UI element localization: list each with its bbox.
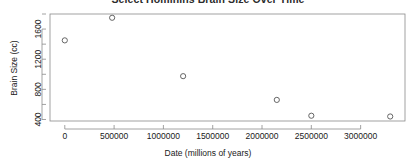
y-axis: 40080012001600 <box>33 14 46 127</box>
y-tick-label: 1200 <box>33 49 43 68</box>
x-tick-label: 1500000 <box>196 131 229 141</box>
x-axis: 0500000100000015000002000000250000030000… <box>62 125 377 141</box>
plot-frame <box>50 14 405 121</box>
y-axis-title: Brain Size (cc) <box>9 18 19 118</box>
data-point-marker <box>309 113 314 118</box>
x-tick-label: 500000 <box>100 131 129 141</box>
x-axis-title: Date (millions of years) <box>0 148 416 158</box>
x-tick-label: 3000000 <box>344 131 377 141</box>
data-point-marker <box>274 97 279 102</box>
x-tick-label: 1000000 <box>147 131 180 141</box>
data-points <box>62 15 393 119</box>
y-tick-label: 800 <box>33 82 43 96</box>
data-point-marker <box>388 114 393 119</box>
scatter-plot-canvas: 40080012001600 0500000100000015000002000… <box>0 0 416 164</box>
x-tick-label: 0 <box>62 131 67 141</box>
x-tick-label: 2500000 <box>295 131 328 141</box>
chart-figure: Select Hominins Brain Size Over Time 400… <box>0 0 416 164</box>
data-point-marker <box>110 15 115 20</box>
x-tick-label: 2000000 <box>245 131 278 141</box>
data-point-marker <box>62 38 67 43</box>
y-tick-label: 1600 <box>33 19 43 38</box>
data-point-marker <box>181 74 186 79</box>
y-tick-label: 400 <box>33 112 43 126</box>
